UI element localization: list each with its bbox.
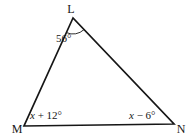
angle-expression: + 12°: [35, 109, 62, 121]
angle-expression: − 6°: [134, 109, 156, 121]
triangle-figure: L M N 56° x + 12° x − 6°: [0, 0, 190, 138]
vertex-label-bottom-right: N: [177, 122, 186, 136]
angle-label-bottom-right: x − 6°: [128, 109, 156, 121]
vertex-label-bottom-left: M: [12, 122, 23, 136]
diagram-canvas: L M N 56° x + 12° x − 6°: [0, 0, 190, 138]
vertex-label-top: L: [67, 2, 74, 16]
angle-label-top: 56°: [56, 32, 71, 44]
angle-label-bottom-left: x + 12°: [29, 109, 62, 121]
